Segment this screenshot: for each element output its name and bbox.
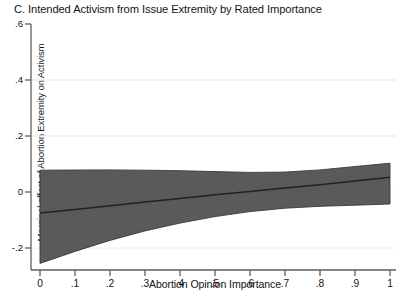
y-tick-label-0: 0 xyxy=(0,186,23,197)
plot-area xyxy=(0,0,398,299)
y-axis-ticks xyxy=(25,24,31,248)
plot-svg xyxy=(0,0,398,299)
y-tick-label-0.2: .2 xyxy=(0,130,23,141)
x-axis-ticks xyxy=(40,270,390,276)
y-tick-label-0.6: .6 xyxy=(0,18,23,29)
chart-figure: C. Intended Activism from Issue Extremit… xyxy=(0,0,398,299)
x-axis-title: Abortion Opinion Importance xyxy=(40,278,390,290)
y-tick-label-0.4: .4 xyxy=(0,74,23,85)
y-tick-label--0.2: -.2 xyxy=(0,242,23,253)
